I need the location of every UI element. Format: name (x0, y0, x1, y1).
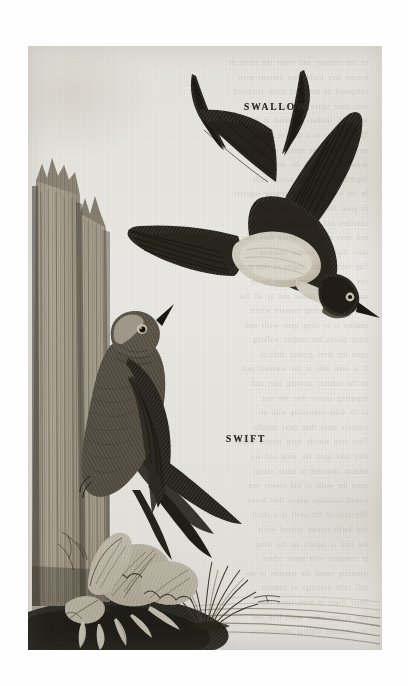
page-canvas: of the chimney and under the eaves ofhou… (0, 0, 408, 686)
engraving-artwork (28, 46, 382, 650)
engraving-plate: of the chimney and under the eaves ofhou… (28, 46, 382, 650)
label-swift: SWIFT (226, 434, 266, 444)
label-swallow: SWALLOW. (244, 102, 311, 112)
